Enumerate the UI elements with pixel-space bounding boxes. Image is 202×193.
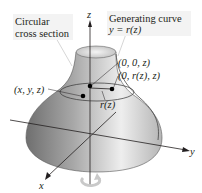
point-general-dot <box>81 94 86 99</box>
label-point-general: (x, y, z) <box>14 84 44 95</box>
axis-label-z: z <box>87 9 91 20</box>
label-generating-eq: y = r(z) <box>109 24 141 35</box>
label-point-curve: (0, r(z), z) <box>118 70 160 81</box>
label-cross-section: cross section <box>15 28 69 39</box>
label-generating-curve: Generating curve <box>109 13 182 24</box>
label-radius: r(z) <box>100 99 115 110</box>
point-axis-dot <box>88 84 93 89</box>
surface-top-opening <box>76 46 116 58</box>
axis-label-x: x <box>39 180 44 191</box>
axis-label-y: y <box>190 146 195 157</box>
label-point-axis: (0, 0, z) <box>118 57 150 68</box>
label-circular: Circular <box>15 16 49 27</box>
